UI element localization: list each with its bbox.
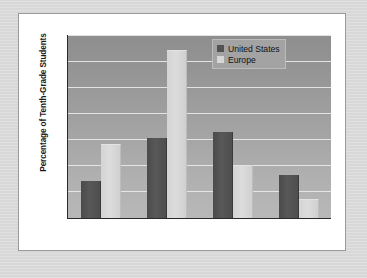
bar-group: Tobacco xyxy=(68,35,134,218)
bar-europe xyxy=(299,199,319,218)
legend-swatch-icon xyxy=(217,56,224,63)
bar-united-states xyxy=(279,175,299,218)
bar-europe xyxy=(233,165,253,218)
bar-europe xyxy=(167,50,187,218)
y-axis-label: Percentage of Tenth-Grade Students xyxy=(39,17,48,189)
legend-item: Europe xyxy=(217,54,280,65)
bar-europe xyxy=(101,144,121,218)
bar-group: Alcohol xyxy=(134,35,200,218)
bar-united-states xyxy=(213,132,233,218)
bar-united-states xyxy=(81,181,101,218)
legend-label: Europe xyxy=(228,55,256,65)
legend-label: United States xyxy=(228,44,280,54)
bar-united-states xyxy=(147,138,167,218)
chart-legend: United StatesEurope xyxy=(212,39,286,69)
bar-chart: Percentage of Tenth-Grade Students 01020… xyxy=(19,14,345,250)
legend-item: United States xyxy=(217,43,280,54)
plot-area: 010203040506070TobaccoAlcoholMarijuanaOt… xyxy=(67,35,331,219)
page-background: Percentage of Tenth-Grade Students 01020… xyxy=(0,0,367,278)
chart-card: Percentage of Tenth-Grade Students 01020… xyxy=(18,13,346,251)
legend-swatch-icon xyxy=(217,45,224,52)
